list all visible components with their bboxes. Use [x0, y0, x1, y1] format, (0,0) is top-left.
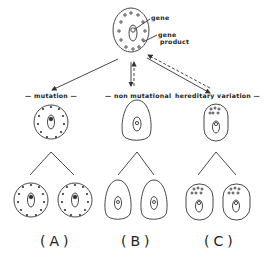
panel-label-c: (C) [204, 233, 237, 249]
non-mutational-label: — non mutational [105, 92, 171, 99]
arrow-to-mutation [52, 59, 118, 90]
mutation-label: — mutation — [25, 92, 77, 99]
panel-label-a: (A) [40, 233, 73, 249]
gene-product-label-2: product [160, 38, 189, 45]
hereditary-variation-label: hereditary variation — [175, 92, 260, 99]
diagram-canvas [0, 0, 266, 265]
gene-product-label-1: gene [158, 31, 176, 38]
panel-label-b: (B) [121, 233, 154, 249]
mutant-cell [34, 105, 68, 139]
gene-label: gene [151, 14, 169, 21]
